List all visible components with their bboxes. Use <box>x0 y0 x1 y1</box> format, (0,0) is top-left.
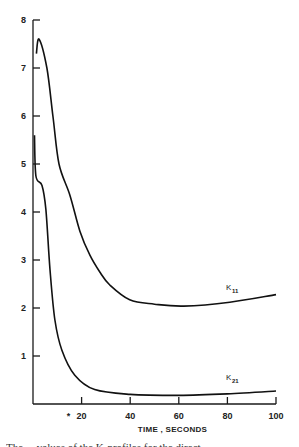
line-chart: 1234567820406080100*TIME , SECONDS K11K2… <box>0 0 299 440</box>
curves <box>35 39 277 395</box>
series-label-subscript: 21 <box>232 378 239 384</box>
curve-k21 <box>35 135 277 395</box>
y-tick-label: 2 <box>21 303 26 313</box>
series-label-k11: K11 <box>226 283 239 294</box>
figure-caption: The ... values of the K-profiles for the… <box>6 440 296 447</box>
x-tick-label: 40 <box>125 411 135 421</box>
x-tick-label: 100 <box>268 411 283 421</box>
x-tick-label: 20 <box>77 411 87 421</box>
labels: K11K21 <box>226 283 239 384</box>
y-tick-label: 7 <box>21 63 26 73</box>
curve-k11 <box>36 39 276 306</box>
x-annotation: * <box>67 411 71 421</box>
y-tick-label: 8 <box>21 15 26 25</box>
x-axis-title: TIME , SECONDS <box>138 425 208 434</box>
y-tick-label: 1 <box>21 351 26 361</box>
y-tick-label: 5 <box>21 159 26 169</box>
y-tick-label: 6 <box>21 111 26 121</box>
series-label-subscript: 11 <box>232 288 239 294</box>
x-tick-label: 80 <box>222 411 232 421</box>
y-tick-label: 4 <box>21 207 26 217</box>
axes: 1234567820406080100*TIME , SECONDS <box>21 15 284 434</box>
x-tick-label: 60 <box>174 411 184 421</box>
y-tick-label: 3 <box>21 255 26 265</box>
series-label-k21: K21 <box>226 373 239 384</box>
